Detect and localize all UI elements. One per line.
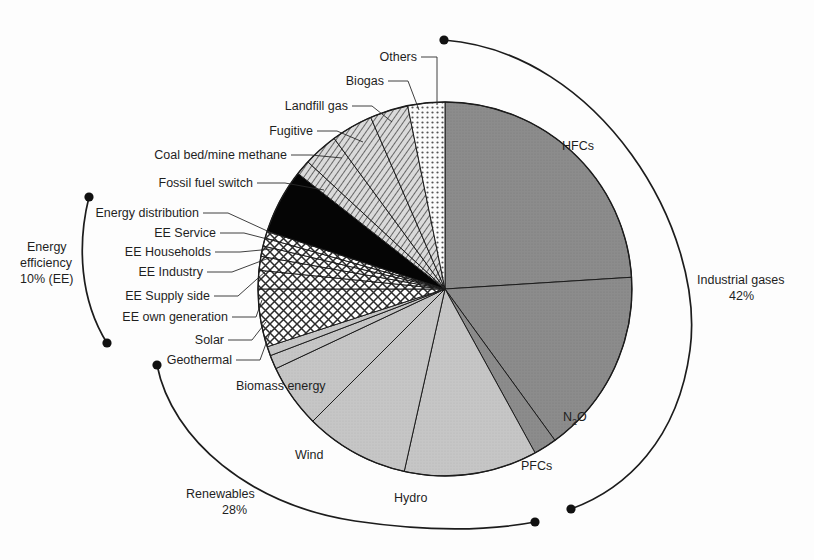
label-fossil-fuel-switch: Fossil fuel switch: [159, 176, 254, 190]
label-energy-distribution: Energy distribution: [95, 206, 199, 220]
label-coal-bed-mine-methane: Coal bed/mine methane: [154, 148, 287, 162]
label-ee-own-generation: EE own generation: [122, 310, 228, 324]
group-label-renewables: Renewables: [186, 487, 255, 501]
bracket-dot-industrial-bottom: [566, 504, 575, 513]
label-ee-households: EE Households: [125, 245, 211, 259]
label-others: Others: [379, 50, 417, 64]
group-label-energy-efficiency-line2: efficiency: [20, 256, 73, 270]
label-geothermal: Geothermal: [167, 353, 232, 367]
pie-chart-figure: Others Biogas Landfill gas Fugitive Coal…: [0, 0, 814, 560]
label-biomass-energy: Biomass energy: [236, 379, 326, 393]
label-wind: Wind: [295, 448, 324, 462]
group-label-energy-efficiency-line1: Energy: [27, 240, 67, 254]
label-hfcs: HFCs: [562, 139, 594, 153]
group-label-energy-efficiency-line3: 10% (EE): [20, 272, 74, 286]
label-pfcs: PFCs: [521, 459, 552, 473]
bracket-dot-renewables-right: [530, 517, 539, 526]
bracket-dot-ee-bottom: [102, 338, 111, 347]
label-solar: Solar: [195, 333, 224, 347]
label-n2o-n: N: [563, 410, 572, 424]
label-ee-service: EE Service: [154, 226, 216, 240]
group-label-renewables-percent: 28%: [222, 503, 247, 517]
label-landfill-gas: Landfill gas: [285, 99, 348, 113]
leader-others: [421, 57, 437, 105]
label-fugitive: Fugitive: [269, 124, 313, 138]
group-label-industrial-gases-percent: 42%: [729, 289, 754, 303]
bracket-dot-industrial-top: [439, 35, 448, 44]
group-label-industrial-gases: Industrial gases: [697, 273, 785, 287]
bracket-dot-ee-top: [84, 192, 93, 201]
label-n2o-o: O: [577, 410, 587, 424]
leader-eeowngen: [232, 300, 262, 317]
leader-solar: [228, 322, 266, 340]
label-ee-industry: EE Industry: [138, 265, 203, 279]
pie-slice-hfcs[interactable]: [445, 102, 632, 289]
bracket-dot-renewables-left: [152, 360, 161, 369]
chart-svg: Others Biogas Landfill gas Fugitive Coal…: [0, 0, 814, 560]
label-biogas: Biogas: [346, 74, 384, 88]
label-hydro: Hydro: [394, 491, 427, 505]
label-ee-supply-side: EE Supply side: [125, 289, 210, 303]
